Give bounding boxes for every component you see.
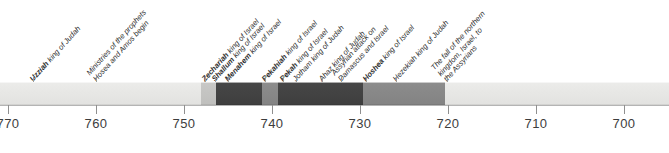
axis-tick-730 bbox=[360, 105, 361, 114]
event-label-uzziah: Uzziah king of Judah bbox=[29, 25, 83, 84]
event-label-shallum: Shallum king of Israel bbox=[211, 22, 267, 83]
axis-tick-750 bbox=[184, 105, 185, 114]
axis-tick-label-730: 730 bbox=[349, 116, 372, 131]
axis-tick-710 bbox=[536, 105, 537, 114]
axis-tick-770 bbox=[8, 105, 9, 114]
band-segment-menahem-reign bbox=[217, 82, 262, 105]
band-segment-pekah-reign bbox=[278, 82, 363, 105]
axis-tick-720 bbox=[448, 105, 449, 114]
band-segment-pekahiah-reign bbox=[262, 82, 278, 105]
axis-tick-label-720: 720 bbox=[437, 116, 460, 131]
timeline-band bbox=[0, 82, 669, 105]
band-top-edge bbox=[0, 82, 669, 83]
axis-line bbox=[0, 105, 669, 106]
event-label-line: Uzziah king of Judah bbox=[29, 25, 83, 84]
axis-tick-label-760: 760 bbox=[85, 116, 108, 131]
axis-tick-760 bbox=[96, 105, 97, 114]
axis-tick-label-750: 750 bbox=[173, 116, 196, 131]
band-segment-shallum-marker bbox=[208, 82, 216, 105]
event-label-line: Shallum king of Israel bbox=[211, 22, 267, 83]
event-label-descriptor: king of Judah bbox=[44, 24, 82, 65]
axis-tick-label-740: 740 bbox=[261, 116, 284, 131]
axis-tick-label-700: 700 bbox=[613, 116, 636, 131]
event-label-line: Hosea and Amos begin bbox=[92, 15, 155, 84]
band-segment-hoshea-reign bbox=[363, 82, 445, 105]
axis-tick-700 bbox=[624, 105, 625, 114]
axis-tick-label-770: 770 bbox=[0, 116, 19, 131]
axis-tick-740 bbox=[272, 105, 273, 114]
event-label-line: Ministries of the prophets bbox=[85, 9, 148, 78]
band-segment-post-period bbox=[445, 82, 669, 105]
timeline-figure: Uzziah king of JudahMinistries of the pr… bbox=[0, 0, 669, 153]
event-label-hosea-amos: Ministries of the prophetsHosea and Amos… bbox=[85, 9, 155, 84]
band-segment-pre-period bbox=[0, 82, 201, 105]
axis-tick-label-710: 710 bbox=[525, 116, 548, 131]
